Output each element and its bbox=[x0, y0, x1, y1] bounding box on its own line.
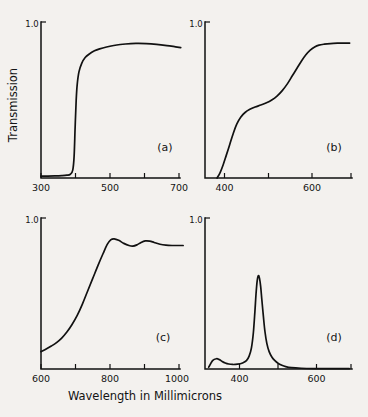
panel-c-xticklabel-800: 800 bbox=[101, 373, 119, 384]
panel-b-label: (b) bbox=[326, 141, 342, 154]
panel-c-ytop-label: 1.0 bbox=[25, 215, 39, 225]
panel-a-xticklabel-500: 500 bbox=[101, 182, 119, 193]
panel-b-xticklabel-600: 600 bbox=[303, 182, 321, 193]
panel-a-label: (a) bbox=[157, 141, 172, 154]
panel-c: 1.0 600 800 1000 (c) bbox=[25, 215, 189, 384]
panel-a-xticklabel-300: 300 bbox=[32, 182, 50, 193]
panel-d: 1.0 400 600 (d) bbox=[189, 215, 352, 384]
x-axis-title: Wavelength in Millimicrons bbox=[68, 389, 222, 403]
panel-a: 1.0 300 500 700 (a) bbox=[25, 19, 188, 193]
panel-b-curve bbox=[217, 43, 350, 178]
panel-a-ytop-label: 1.0 bbox=[25, 19, 39, 29]
panel-d-axes bbox=[205, 218, 352, 369]
transmission-figure: Transmission 1.0 300 500 700 (a) 1.0 bbox=[0, 0, 368, 417]
panel-c-xticklabel-1000: 1000 bbox=[165, 373, 189, 384]
panel-c-xticklabel-600: 600 bbox=[32, 373, 50, 384]
panel-d-xticklabel-600: 600 bbox=[307, 373, 325, 384]
panel-c-label: (c) bbox=[156, 331, 171, 344]
panel-b: 1.0 400 600 (b) bbox=[189, 19, 352, 193]
panel-b-xticklabel-400: 400 bbox=[215, 182, 233, 193]
panel-d-ytop-label: 1.0 bbox=[189, 215, 203, 225]
y-axis-title: Transmission bbox=[6, 68, 20, 143]
panel-b-ytop-label: 1.0 bbox=[189, 19, 203, 29]
panel-d-curve bbox=[209, 276, 350, 369]
panel-d-label: (d) bbox=[326, 331, 342, 344]
panel-a-curve bbox=[41, 43, 181, 176]
panel-d-xticklabel-400: 400 bbox=[230, 373, 248, 384]
panel-a-xticklabel-700: 700 bbox=[170, 182, 188, 193]
figure-container: Transmission 1.0 300 500 700 (a) 1.0 bbox=[0, 0, 368, 417]
y-axis-title-group: Transmission bbox=[6, 68, 20, 143]
